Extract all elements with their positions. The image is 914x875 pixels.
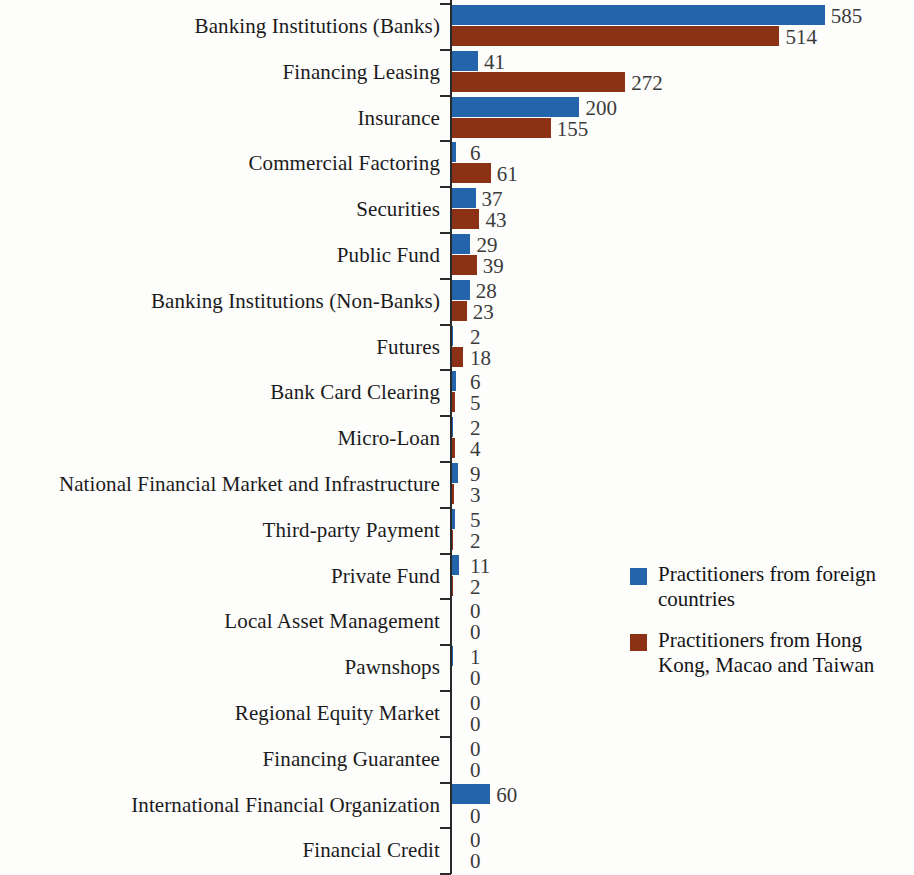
bar-value-label: 29 [476,235,497,255]
bar-value-label: 28 [476,281,497,301]
category-label: Micro-Loan [0,426,440,450]
category-label: Regional Equity Market [0,701,440,725]
category-label: Securities [0,197,440,221]
bar-value-label: 0 [470,622,481,642]
legend-label: Practitioners from Hong Kong, Macao and … [658,628,874,677]
bar-blue [452,555,459,575]
bar-value-label: 0 [470,851,481,871]
axis-tick [440,644,451,646]
category-label: Local Asset Management [0,609,440,633]
axis-tick [440,507,451,509]
axis-tick [440,690,451,692]
bar-value-label: 2 [470,418,481,438]
bar-red [452,576,453,596]
axis-tick [440,140,451,142]
bar-red [452,163,491,183]
bar-value-label: 41 [484,52,505,72]
axis-tick [440,186,451,188]
category-label: Private Fund [0,564,440,588]
bar-value-label: 60 [496,785,517,805]
axis-tick [440,782,451,784]
bar-value-label: 0 [470,806,481,826]
bar-value-label: 0 [470,693,481,713]
bar-red [452,301,467,321]
bar-value-label: 2 [470,577,481,597]
axis-tick [440,827,451,829]
axis-tick [440,598,451,600]
category-label: Public Fund [0,243,440,267]
bar-blue [452,646,453,666]
blue-square-icon [630,568,647,585]
bar-value-label: 0 [470,830,481,850]
bar-red [452,26,779,46]
bar-blue [452,97,579,117]
axis-tick [440,736,451,738]
bar-blue [452,5,825,25]
category-label: Futures [0,335,440,359]
category-label: Banking Institutions (Non-Banks) [0,289,440,313]
bar-value-label: 272 [631,73,663,93]
bar-value-label: 200 [585,98,617,118]
bar-red [452,72,625,92]
axis-tick [440,3,451,5]
bar-value-label: 23 [473,302,494,322]
axis-tick [440,278,451,280]
bar-blue [452,509,455,529]
bar-blue [452,188,476,208]
category-label: Financing Guarantee [0,747,440,771]
bar-blue [452,417,453,437]
bar-red [452,255,477,275]
bar-red [452,118,551,138]
bar-value-label: 5 [470,393,481,413]
bar-value-label: 4 [470,439,481,459]
bar-red [452,438,455,458]
category-label: Banking Institutions (Banks) [0,14,440,38]
bar-value-label: 18 [470,348,491,368]
bar-value-label: 11 [470,556,490,576]
bar-red [452,530,453,550]
axis-tick [440,232,451,234]
bar-value-label: 5 [470,510,481,530]
axis-tick [440,553,451,555]
bar-blue [452,51,478,71]
bar-blue [452,234,470,254]
bar-value-label: 2 [470,531,481,551]
bar-value-label: 155 [557,119,589,139]
bar-blue [452,371,456,391]
bar-blue [452,784,490,804]
category-label: Third-party Payment [0,518,440,542]
category-label: Financial Credit [0,838,440,862]
bar-blue [452,326,453,346]
axis-tick [440,324,451,326]
bar-red [452,209,479,229]
bar-red [452,347,463,367]
category-label: International Financial Organization [0,793,440,817]
bar-blue [452,142,456,162]
bar-value-label: 9 [470,464,481,484]
bar-value-label: 0 [470,668,481,688]
bar-value-label: 61 [497,164,518,184]
red-square-icon [630,634,647,651]
legend-item-2[interactable]: Practitioners from Hong Kong, Macao and … [630,628,910,678]
bar-value-label: 514 [785,27,817,47]
bar-value-label: 6 [470,143,481,163]
bar-value-label: 0 [470,760,481,780]
legend-label: Practitioners from foreign countries [658,562,876,611]
bar-value-label: 37 [482,189,503,209]
bar-value-label: 0 [470,739,481,759]
category-label: Insurance [0,106,440,130]
legend-item-1[interactable]: Practitioners from foreign countries [630,562,910,612]
axis-tick [440,49,451,51]
bar-red [452,392,455,412]
bar-value-label: 585 [831,6,863,26]
bar-value-label: 43 [485,210,506,230]
bar-blue [452,280,470,300]
bar-value-label: 3 [470,485,481,505]
category-label: National Financial Market and Infrastruc… [0,472,440,496]
category-label: Commercial Factoring [0,151,440,175]
bar-value-label: 6 [470,372,481,392]
category-label: Bank Card Clearing [0,380,440,404]
bar-value-label: 0 [470,714,481,734]
chart-legend: Practitioners from foreign countriesPrac… [630,562,910,694]
